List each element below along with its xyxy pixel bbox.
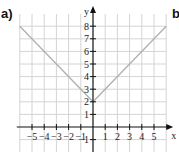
y-tick-label: 8	[84, 21, 89, 32]
y-tick-label: −1	[78, 134, 89, 145]
x-tick-label: −3	[51, 131, 62, 142]
y-tick-label: 2	[84, 96, 89, 107]
x-tick-label: −5	[27, 131, 38, 142]
y-tick-label: 1	[84, 109, 89, 120]
x-tick-label: 5	[152, 131, 157, 142]
y-tick-label: 3	[84, 84, 89, 95]
y-tick-label: 7	[84, 33, 89, 44]
x-tick-label: 3	[127, 131, 132, 142]
x-tick-label: −2	[63, 131, 74, 142]
x-tick-label: 4	[139, 131, 144, 142]
x-tick-label: 1	[103, 131, 108, 142]
y-axis-arrow-icon	[90, 6, 96, 13]
y-tick-label: 6	[84, 46, 89, 57]
y-axis-label: y	[84, 6, 89, 17]
y-tick-label: 4	[84, 71, 89, 82]
chart-plot: −5−4−3−2−112345−112345678xy	[0, 0, 179, 157]
x-tick-label: 2	[115, 131, 120, 142]
x-axis-label: x	[171, 130, 176, 141]
y-tick-label: 5	[84, 59, 89, 70]
x-tick-label: −4	[39, 131, 50, 142]
